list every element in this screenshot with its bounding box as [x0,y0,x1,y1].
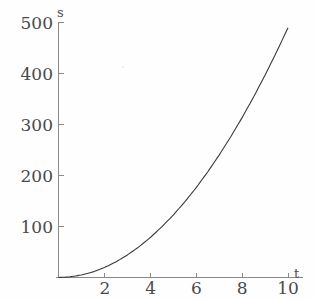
data-curve-series-0 [59,28,289,278]
x-tick-label-10: 10 [277,278,299,298]
image-artifact-speck [122,66,124,68]
plot-canvas: 500 400 300 200 100 2 4 6 8 10 s t [0,0,315,300]
y-tick-label-400: 400 [21,64,53,84]
y-tick-label-500: 500 [21,13,53,33]
x-axis-ticks [105,273,288,278]
x-tick-label-4: 4 [145,278,156,298]
y-tick-label-200: 200 [21,166,53,186]
y-axis-ticks [59,23,64,227]
y-axis-tick-labels: 500 400 300 200 100 [21,13,53,237]
x-axis-label: t [294,266,300,281]
x-tick-label-6: 6 [191,278,202,298]
y-tick-label-300: 300 [21,115,53,135]
x-tick-label-2: 2 [99,278,110,298]
x-axis-tick-labels: 2 4 6 8 10 [99,278,298,298]
plot-figure: 500 400 300 200 100 2 4 6 8 10 s t [0,0,315,300]
x-tick-label-8: 8 [237,278,248,298]
y-tick-label-100: 100 [21,217,53,237]
y-axis-label: s [57,5,64,20]
